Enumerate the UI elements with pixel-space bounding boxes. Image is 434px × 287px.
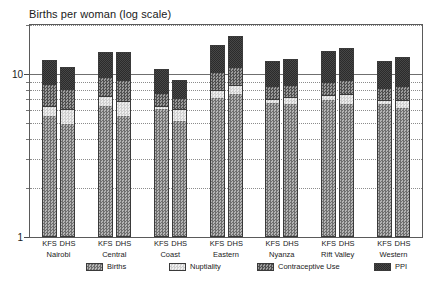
x-subtick-label: DHS [115,239,131,248]
bar-segment-contraceptive-use [340,80,353,94]
bar-nyanza-dhs [283,59,298,237]
bar-nairobi-kfs [42,60,57,237]
bar-nairobi-dhs [60,67,75,237]
bar-segment-nuptiality [99,96,112,106]
x-subtick-label: DHS [339,239,355,248]
x-subtick-label: KFS [266,239,281,248]
bar-central-dhs [116,52,131,237]
bar-segment-nuptiality [155,106,168,109]
bar-segment-births [396,108,409,237]
x-group-label: Central [102,250,126,259]
bar-segment-births [43,116,56,237]
legend-swatch-icon [169,263,186,271]
bar-segment-contraceptive-use [211,72,224,91]
legend-label: Contraceptive Use [278,263,340,271]
bar-segment-contraceptive-use [99,77,112,96]
bar-western-kfs [377,61,392,237]
bar-segment-ppi [229,36,242,67]
bar-segment-births [61,124,74,237]
bar-segment-contraceptive-use [229,67,242,86]
x-group-label: Coast [160,250,180,259]
chart-legend: BirthsNuptialityContraceptive UsePPI [29,263,423,279]
legend-item-contraceptive-use: Contraceptive Use [257,263,340,271]
bar-segment-contraceptive-use [284,85,297,97]
bar-segment-ppi [173,80,186,98]
legend-item-nuptiality: Nuptiality [169,263,221,271]
bar-segment-ppi [117,52,130,80]
bar-segment-contraceptive-use [266,86,279,99]
bar-segment-nuptiality [284,97,297,105]
legend-swatch-icon [86,263,103,271]
bar-segment-contraceptive-use [322,82,335,95]
bar-segment-births [266,103,279,237]
bar-western-dhs [395,57,410,237]
x-group-label: Nyanza [269,250,294,259]
bar-segment-ppi [266,61,279,86]
legend-item-ppi: PPI [374,263,407,271]
bar-segment-nuptiality [43,106,56,116]
bar-segment-ppi [61,67,74,89]
bar-segment-nuptiality [229,85,242,94]
bar-segment-contraceptive-use [173,98,186,110]
bar-segment-births [229,94,242,237]
x-group-label: Western [380,250,408,259]
bar-segment-nuptiality [378,100,391,104]
x-subtick-label: KFS [42,239,57,248]
x-subtick-label: DHS [171,239,187,248]
bar-segment-births [155,109,168,237]
bars-layer [30,25,422,237]
bar-central-kfs [98,52,113,237]
bar-segment-nuptiality [211,90,224,98]
bar-segment-contraceptive-use [61,89,74,109]
bar-segment-nuptiality [396,100,409,108]
bar-segment-contraceptive-use [396,86,409,100]
bar-segment-ppi [378,61,391,87]
x-subtick-label: DHS [283,239,299,248]
bar-segment-ppi [284,59,297,85]
bar-segment-births [99,106,112,238]
legend-label: PPI [395,263,407,271]
bar-segment-ppi [211,45,224,72]
bar-coast-dhs [172,80,187,237]
x-group-label: Eastern [213,250,239,259]
bar-segment-contraceptive-use [155,93,168,106]
legend-label: Nuptiality [190,263,221,271]
bar-segment-nuptiality [322,95,335,100]
bar-rift-valley-kfs [321,51,336,237]
legend-label: Births [107,263,126,271]
bar-segment-births [340,104,353,237]
bar-nyanza-kfs [265,61,280,237]
legend-swatch-icon [374,263,391,271]
chart-container: Births per woman (log scale) 101 KFSDHSN… [0,0,434,287]
bar-segment-nuptiality [61,109,74,124]
x-group-label: Rift Valley [321,250,354,259]
bar-segment-nuptiality [117,101,130,116]
x-subtick-label: KFS [98,239,113,248]
bar-coast-kfs [154,69,169,237]
x-subtick-label: KFS [321,239,336,248]
chart-title: Births per woman (log scale) [29,8,171,20]
x-subtick-label: DHS [60,239,76,248]
bar-eastern-kfs [210,45,225,237]
x-group-label: Nairobi [47,250,71,259]
bar-segment-births [117,116,130,237]
bar-segment-ppi [396,57,409,86]
bar-segment-contraceptive-use [43,84,56,106]
bar-segment-births [378,104,391,237]
bar-segment-births [284,104,297,237]
bar-segment-nuptiality [173,109,186,121]
y-tick-label: 1 [17,232,23,243]
bar-rift-valley-dhs [339,48,354,237]
bar-segment-ppi [155,69,168,92]
bar-segment-births [322,100,335,237]
x-subtick-label: DHS [395,239,411,248]
bar-segment-nuptiality [266,99,279,104]
plot-area [29,24,423,238]
bar-segment-ppi [340,48,353,80]
bar-segment-ppi [322,51,335,81]
bar-eastern-dhs [228,36,243,237]
x-subtick-label: DHS [227,239,243,248]
bar-segment-nuptiality [340,94,353,104]
bar-segment-births [173,121,186,237]
bar-segment-contraceptive-use [378,88,391,101]
